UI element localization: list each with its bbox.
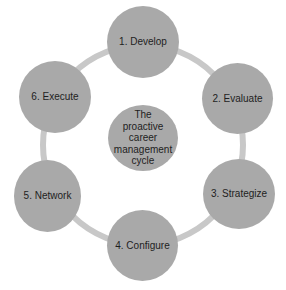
step-label: 2. Evaluate xyxy=(212,93,262,105)
step-label: 3. Strategize xyxy=(211,188,267,200)
step-strategize: 3. Strategize xyxy=(203,159,275,229)
step-evaluate: 2. Evaluate xyxy=(202,63,273,134)
center-concept: The proactive career management cycle xyxy=(108,105,178,171)
step-network: 5. Network xyxy=(14,160,81,232)
step-label: 5. Network xyxy=(24,190,72,202)
step-label: 1. Develop xyxy=(119,36,167,48)
step-label: 6. Execute xyxy=(31,91,78,103)
center-label: The proactive career management cycle xyxy=(114,109,172,167)
step-configure: 4. Configure xyxy=(107,210,178,281)
step-label: 4. Configure xyxy=(115,240,169,252)
step-develop: 1. Develop xyxy=(107,6,179,78)
step-execute: 6. Execute xyxy=(19,61,91,133)
